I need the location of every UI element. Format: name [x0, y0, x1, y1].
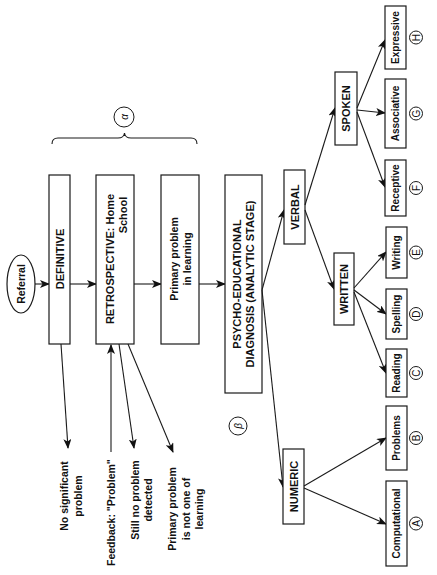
svg-text:problem: problem: [72, 475, 84, 516]
svg-text:Primary problem: Primary problem: [166, 467, 178, 550]
stage-primary-problem: Primary problem in learning: [161, 175, 199, 344]
svg-text:C: C: [411, 369, 422, 376]
svg-text:Referral: Referral: [15, 264, 27, 304]
leaf-problems: Problems B: [386, 406, 423, 470]
svg-text:Expressive: Expressive: [390, 11, 401, 64]
svg-text:B: B: [411, 434, 422, 441]
stage-retrospective: RETROSPECTIVE: Home School: [96, 175, 134, 344]
svg-text:SPOKEN: SPOKEN: [340, 85, 352, 132]
arrow-written-writing: [354, 252, 386, 288]
leaf-associative: Associative G: [385, 79, 423, 148]
svg-text:D: D: [411, 310, 422, 317]
svg-text:is not one of: is not one of: [180, 477, 192, 540]
svg-text:Associative: Associative: [390, 85, 401, 141]
arrow-written-reading: [354, 292, 386, 373]
svg-text:No significant: No significant: [58, 461, 70, 531]
svg-text:Reading: Reading: [391, 353, 402, 392]
leaf-receptive: Receptive F: [385, 160, 423, 216]
arrow-verbal-spoken: [305, 108, 335, 205]
beta-symbol: β: [229, 417, 247, 435]
arrow-verbal-written: [305, 210, 334, 289]
svg-text:Primary problem: Primary problem: [168, 217, 180, 300]
svg-text:β: β: [233, 423, 244, 430]
arrow-written-spelling: [354, 290, 386, 314]
svg-text:A: A: [411, 520, 422, 527]
arrow-not-learning: [128, 344, 173, 452]
svg-text:DEFINITIVE: DEFINITIVE: [54, 229, 66, 290]
svg-text:WRITTEN: WRITTEN: [338, 264, 350, 314]
svg-text:H: H: [411, 34, 422, 41]
leaf-computational: Computational A: [386, 481, 423, 566]
svg-text:in learning: in learning: [181, 232, 193, 285]
alpha-brace: [52, 133, 197, 144]
leaf-spelling: Spelling D: [386, 289, 423, 339]
outcome-not-learning: Primary problem is not one of learning: [166, 467, 205, 550]
alpha-symbol: α: [114, 107, 134, 127]
svg-text:VERBAL: VERBAL: [289, 184, 301, 230]
svg-text:School: School: [117, 197, 129, 234]
branch-written: WRITTEN: [334, 253, 354, 325]
arrow-no-significant: [61, 344, 68, 448]
svg-text:E: E: [411, 249, 422, 256]
branch-spoken: SPOKEN: [335, 72, 357, 145]
outcome-no-significant: No significant problem: [58, 461, 84, 531]
arrow-numeric-computational: [304, 488, 386, 524]
svg-text:RETROSPECTIVE: Home: RETROSPECTIVE: Home: [104, 194, 116, 324]
svg-text:Spelling: Spelling: [391, 295, 402, 334]
stage-psycho-educational: PSYCHO-EDUCATIONAL DIAGNOSIS (ANALYTIC S…: [225, 175, 262, 393]
branch-verbal: VERBAL: [284, 170, 305, 244]
outcome-still-no-problem: Still no problem detected: [129, 460, 154, 539]
arrow-numeric-problems: [304, 438, 386, 486]
svg-text:NUMERIC: NUMERIC: [288, 461, 300, 512]
svg-text:PSYCHO-EDUCATIONAL: PSYCHO-EDUCATIONAL: [231, 219, 243, 349]
svg-text:Problems: Problems: [391, 415, 402, 461]
leaf-writing: Writing E: [386, 227, 423, 278]
arrow-psycho-numeric: [262, 290, 283, 487]
arrow-spoken-expressive: [357, 40, 385, 108]
arrow-spoken-receptive: [357, 112, 385, 187]
svg-text:Still no problem: Still no problem: [129, 460, 141, 539]
svg-text:Feedback: "Problem": Feedback: "Problem": [105, 459, 117, 566]
svg-text:detected: detected: [142, 478, 154, 521]
leaf-reading: Reading C: [386, 349, 423, 397]
arrow-psycho-verbal: [262, 210, 284, 290]
svg-text:Computational: Computational: [391, 488, 402, 558]
svg-text:learning: learning: [193, 489, 205, 530]
svg-text:α: α: [119, 114, 130, 120]
arrow-spoken-associative: [357, 110, 385, 113]
svg-text:Receptive: Receptive: [390, 164, 401, 212]
svg-text:F: F: [411, 185, 422, 191]
stage-definitive: DEFINITIVE: [49, 175, 70, 344]
svg-text:G: G: [411, 109, 422, 117]
branch-numeric: NUMERIC: [283, 449, 304, 524]
referral-node: Referral: [7, 255, 35, 313]
svg-text:DIAGNOSIS (ANALYTIC STAGE): DIAGNOSIS (ANALYTIC STAGE): [244, 200, 256, 367]
arrow-still-no-problem: [119, 344, 134, 448]
leaf-expressive: Expressive H: [385, 6, 423, 69]
diagnostic-flow-diagram: α Referral DEFINITIVE RETROSPECTIVE: Hom…: [0, 0, 437, 575]
svg-text:Writing: Writing: [391, 235, 402, 269]
outcome-feedback: Feedback: "Problem": [105, 459, 117, 566]
